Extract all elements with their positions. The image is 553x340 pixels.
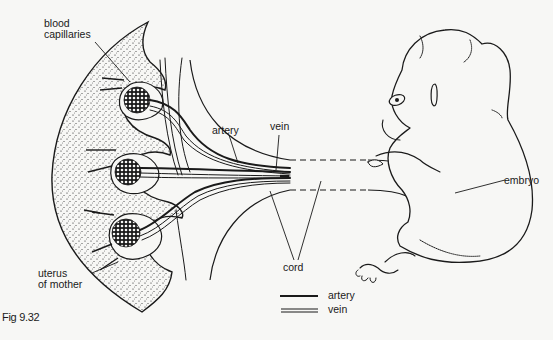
legend-artery-label: artery xyxy=(328,290,355,301)
label-embryo: embryo xyxy=(504,175,539,186)
label-uterus-line2: of mother xyxy=(38,279,82,290)
diagram-artwork xyxy=(0,0,553,340)
umbilical-vessels xyxy=(140,58,290,280)
label-artery: artery xyxy=(212,125,239,136)
label-blood-capillaries-line2: capillaries xyxy=(44,29,91,40)
figure-caption: Fig 9.32 xyxy=(2,311,39,323)
label-uterus-of-mother: uterus of mother xyxy=(38,268,82,290)
placenta-embryo-diagram: blood capillaries artery vein embryo cor… xyxy=(0,0,553,340)
legend-vein-label: vein xyxy=(328,304,347,315)
label-vein: vein xyxy=(270,121,289,132)
label-blood-capillaries: blood capillaries xyxy=(44,18,91,40)
legend-swatches xyxy=(280,296,318,312)
label-cord: cord xyxy=(283,262,303,273)
embryo-figure xyxy=(356,30,533,283)
